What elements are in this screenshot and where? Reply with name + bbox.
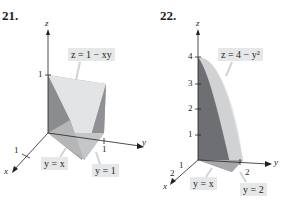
z-axis-label-22: z (196, 18, 200, 28)
y-tick-22: 2 (245, 167, 250, 177)
z-tick-22-3: 3 (188, 78, 193, 88)
z-tick-22-1: 1 (188, 129, 193, 139)
z-tick-22-4: 4 (188, 51, 193, 61)
x-axis-label-22: x (163, 181, 167, 191)
x-tick-22-1: 1 (179, 160, 184, 170)
boundary-label-22-b: y = 2 (240, 183, 267, 196)
y-axis-label-22: y (274, 157, 278, 167)
x-tick-22-2: 2 (170, 168, 175, 178)
boundary-label-22-a: y = x (190, 177, 217, 190)
surface-label-22: z = 4 − y² (218, 48, 263, 61)
z-tick-22-2: 2 (188, 103, 193, 113)
